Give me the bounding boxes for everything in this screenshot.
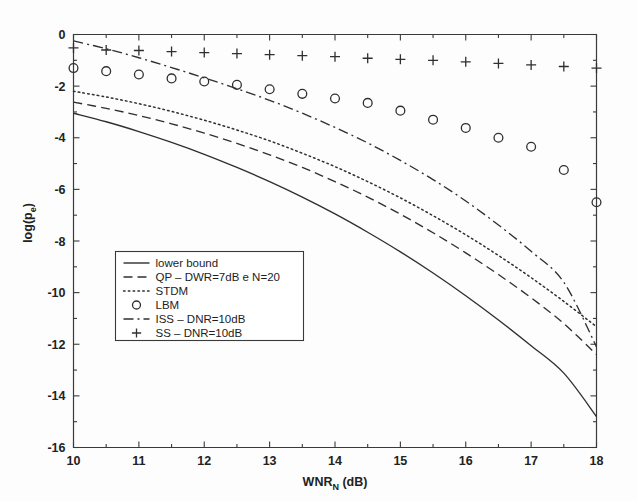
- y-tick-label: -14: [47, 389, 65, 403]
- marker-ss: [232, 49, 242, 59]
- marker-ss: [297, 51, 307, 61]
- marker-ss: [461, 57, 471, 67]
- x-tick-label: 18: [590, 454, 604, 468]
- figure-container: 1011121314151617180-2-4-6-8-10-12-14-16 …: [0, 0, 637, 502]
- marker-lbm: [559, 166, 568, 175]
- axis-box: [74, 35, 597, 448]
- y-tick-label: -4: [54, 131, 65, 145]
- marker-ss: [526, 60, 536, 70]
- marker-lbm: [396, 106, 405, 115]
- marker-lbm: [298, 89, 307, 98]
- marker-lbm: [200, 77, 209, 86]
- marker-ss: [69, 43, 79, 53]
- marker-lbm: [429, 115, 438, 124]
- marker-lbm: [363, 99, 372, 108]
- y-tick-label: -6: [54, 183, 65, 197]
- marker-ss: [493, 58, 503, 68]
- y-tick-label: -16: [47, 441, 65, 455]
- legend-label: QP – DWR=7dB e N=20: [156, 271, 280, 283]
- y-tick-label: -2: [54, 80, 65, 94]
- marker-lbm: [102, 67, 111, 76]
- y-tick-label: -8: [54, 235, 65, 249]
- marker-lbm: [167, 74, 176, 83]
- x-tick-label: 12: [197, 454, 211, 468]
- x-tick-label: 17: [524, 454, 538, 468]
- x-tick-label: 15: [393, 454, 407, 468]
- marker-ss: [330, 52, 340, 62]
- x-axis-title: WNRN (dB): [303, 475, 368, 492]
- marker-ss: [395, 54, 405, 64]
- marker-lbm: [331, 94, 340, 103]
- marker-ss: [559, 62, 569, 72]
- marker-ss: [363, 53, 373, 63]
- marker-lbm: [461, 124, 470, 133]
- legend-label: STDM: [156, 285, 189, 297]
- marker-ss: [199, 48, 209, 58]
- marker-ss: [428, 55, 438, 65]
- legend-label: ISS – DNR=10dB: [156, 313, 246, 325]
- marker-ss: [101, 45, 111, 55]
- legend-label: SS – DNR=10dB: [156, 327, 243, 339]
- x-tick-label: 14: [328, 454, 342, 468]
- marker-ss: [167, 47, 177, 57]
- marker-ss: [265, 50, 275, 60]
- x-tick-label: 13: [263, 454, 277, 468]
- x-tick-label: 16: [459, 454, 473, 468]
- legend-label: LBM: [156, 299, 180, 311]
- y-tick-label: -10: [47, 286, 65, 300]
- y-axis-title: log(pe): [21, 203, 38, 243]
- chart-canvas: 1011121314151617180-2-4-6-8-10-12-14-16 …: [0, 0, 637, 502]
- marker-ss: [134, 46, 144, 56]
- y-tick-label: -12: [47, 338, 65, 352]
- minor-tick-group: [74, 35, 597, 448]
- marker-lbm: [527, 142, 536, 151]
- tick-label-group: 1011121314151617180-2-4-6-8-10-12-14-16: [47, 28, 603, 468]
- legend-label: lower bound: [156, 257, 219, 269]
- marker-lbm: [233, 80, 242, 89]
- y-tick-label: 0: [59, 28, 66, 42]
- series-group: [74, 41, 597, 417]
- marker-lbm: [134, 70, 143, 79]
- marker-lbm: [494, 133, 503, 142]
- marker-lbm: [265, 85, 274, 94]
- x-tick-label: 11: [132, 454, 145, 468]
- marker-ss: [592, 63, 602, 73]
- legend: lower boundQP – DWR=7dB e N=20STDMLBMISS…: [116, 252, 304, 341]
- x-tick-label: 10: [67, 454, 81, 468]
- axis-frame: [74, 35, 597, 448]
- major-tick-group: [74, 35, 597, 448]
